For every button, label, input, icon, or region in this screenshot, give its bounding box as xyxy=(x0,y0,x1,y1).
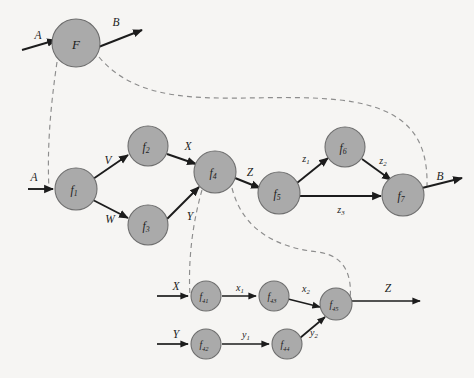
output-Z-bottom-label: Z xyxy=(385,282,392,294)
input-arrow-A-to-F xyxy=(22,40,56,50)
edge-label-x1: x1 xyxy=(235,282,244,294)
level-bottom: f41 f42 f43 f44 f45 x1 x2 y1 y2 X Y Z xyxy=(157,280,420,359)
edge-label-z2: z2 xyxy=(378,155,387,167)
node-F-label: F xyxy=(71,37,81,52)
edge-f43-to-f45 xyxy=(288,299,320,307)
output-B-mid-label: B xyxy=(436,170,443,182)
input-X-bottom-label: X xyxy=(171,280,180,292)
edge-label-z1: z1 xyxy=(301,153,309,165)
edge-label-V: V xyxy=(104,154,113,166)
dashed-link-f4-input-to-f41-input xyxy=(190,190,203,296)
diagram-canvas: F A B xyxy=(0,0,474,378)
edge-f4-to-f5 xyxy=(235,178,260,188)
input-A-label: A xyxy=(33,29,42,41)
level-top: F A B xyxy=(22,16,142,67)
edge-label-X: X xyxy=(183,140,192,152)
output-B-label: B xyxy=(112,16,119,28)
edge-label-z3: z3 xyxy=(336,204,345,216)
output-arrow-F-to-B xyxy=(96,30,142,48)
edge-f3-to-f4 xyxy=(167,187,199,219)
edge-label-y1: y1 xyxy=(241,329,250,341)
input-A-mid-label: A xyxy=(29,171,38,183)
edge-f2-to-f4 xyxy=(167,154,196,164)
edge-label-Z: Z xyxy=(247,166,254,178)
level-middle: f1 f2 f3 f4 f5 f6 f7 V W X Y Z z1 z2 z3 … xyxy=(28,126,462,245)
function-decomposition-diagram: F A B xyxy=(0,0,474,378)
dashed-link-F-to-f1-input xyxy=(48,62,57,190)
input-Y-bottom-label: Y xyxy=(173,328,181,340)
dashed-link-F-output-to-f7-output xyxy=(99,57,427,186)
edge-label-y2: y2 xyxy=(309,327,318,339)
edge-label-x2: x2 xyxy=(301,283,310,295)
edge-label-Y: Y xyxy=(187,210,195,222)
edge-label-W: W xyxy=(105,213,116,225)
